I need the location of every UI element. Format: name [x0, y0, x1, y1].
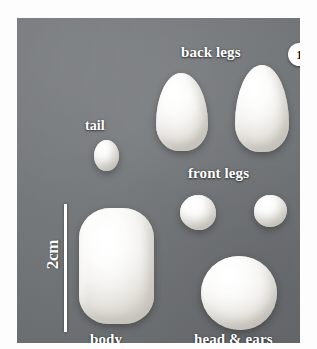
label-tail: tail [85, 119, 105, 133]
scale-bar-label: 2cm [44, 232, 61, 278]
clay-piece-back-leg-left [156, 73, 208, 151]
clay-piece-front-leg-left [180, 195, 216, 230]
clay-piece-head-and-ears [201, 256, 277, 330]
photograph-plate: back legs tail front legs body head & ea… [17, 18, 300, 343]
label-body: body [90, 332, 122, 343]
clay-piece-back-leg-right [235, 65, 289, 152]
panel-number-badge: 1 [288, 43, 300, 66]
label-head-and-ears: head & ears [194, 332, 273, 343]
label-front-legs: front legs [188, 166, 249, 181]
scale-bar [64, 204, 67, 332]
clay-piece-tail [94, 140, 119, 171]
clay-piece-body [79, 208, 154, 324]
figure-panel: back legs tail front legs body head & ea… [0, 0, 317, 349]
label-back-legs: back legs [181, 45, 241, 60]
clay-piece-front-leg-right [254, 195, 287, 227]
